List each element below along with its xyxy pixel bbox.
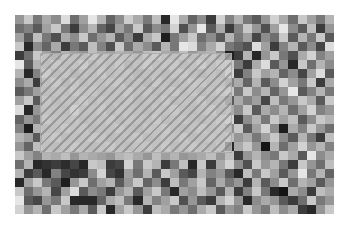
pixel-cell [24, 96, 33, 105]
pixel-cell [298, 33, 307, 42]
pixel-cell [79, 169, 88, 178]
pixel-cell [288, 15, 297, 24]
pixel-cell [133, 24, 142, 33]
pixel-cell [288, 160, 297, 169]
pixel-cell [216, 178, 225, 187]
pixel-cell [325, 105, 334, 114]
pixel-cell [279, 178, 288, 187]
pixel-cell [279, 69, 288, 78]
pixel-cell [252, 196, 261, 205]
pixel-cell [279, 169, 288, 178]
pixel-cell [179, 24, 188, 33]
pixel-cell [307, 105, 316, 114]
pixel-cell [79, 15, 88, 24]
pixel-cell [188, 196, 197, 205]
pixel-cell [179, 196, 188, 205]
pixel-cell [161, 42, 170, 51]
pixel-cell [143, 169, 152, 178]
pixel-cell [51, 196, 60, 205]
pixel-cell [270, 105, 279, 114]
pixel-cell [24, 42, 33, 51]
pixel-cell [252, 133, 261, 142]
pixel-cell [115, 42, 124, 51]
pixel-cell [261, 78, 270, 87]
pixel-cell [234, 142, 243, 151]
pixel-cell [161, 178, 170, 187]
pixel-cell [279, 33, 288, 42]
pixel-cell [179, 169, 188, 178]
pixel-cell [298, 51, 307, 60]
pixel-cell [33, 196, 42, 205]
pixel-cell [133, 169, 142, 178]
pixel-cell [15, 96, 24, 105]
pixel-cell [97, 42, 106, 51]
pixel-cell [261, 42, 270, 51]
pixel-cell [143, 33, 152, 42]
pixel-cell [124, 205, 133, 214]
pixel-cell [234, 205, 243, 214]
pixel-cell [288, 24, 297, 33]
pixel-cell [279, 24, 288, 33]
pixel-cell [15, 169, 24, 178]
pixel-cell [298, 15, 307, 24]
pixel-cell [288, 33, 297, 42]
pixel-cell [288, 51, 297, 60]
pixel-cell [307, 51, 316, 60]
pixel-cell [42, 187, 51, 196]
pixel-cell [270, 15, 279, 24]
pixel-cell [234, 24, 243, 33]
pixel-cell [270, 196, 279, 205]
pixel-cell [279, 142, 288, 151]
pixel-cell [270, 115, 279, 124]
pixel-cell [307, 96, 316, 105]
pixel-cell [298, 96, 307, 105]
pixel-cell [307, 60, 316, 69]
pixel-cell [234, 187, 243, 196]
pixel-cell [61, 205, 70, 214]
pixel-cell [42, 24, 51, 33]
pixel-cell [51, 169, 60, 178]
pixel-cell [307, 24, 316, 33]
pixel-cell [143, 196, 152, 205]
pixel-cell [234, 33, 243, 42]
pixel-cell [325, 124, 334, 133]
pixel-cell [206, 33, 215, 42]
pixel-cell [325, 115, 334, 124]
selection-rectangle[interactable] [40, 53, 231, 153]
pixel-cell [298, 205, 307, 214]
pixel-cell [270, 42, 279, 51]
pixel-cell [143, 160, 152, 169]
pixel-cell [79, 196, 88, 205]
pixel-cell [288, 78, 297, 87]
pixel-cell [261, 24, 270, 33]
pixel-cell [288, 178, 297, 187]
pixel-cell [179, 33, 188, 42]
pixel-cell [197, 169, 206, 178]
pixel-cell [316, 96, 325, 105]
image-canvas[interactable] [15, 15, 334, 214]
pixel-cell [325, 169, 334, 178]
pixel-cell [252, 96, 261, 105]
pixel-cell [15, 51, 24, 60]
pixel-cell [15, 105, 24, 114]
pixel-cell [252, 42, 261, 51]
pixel-cell [316, 169, 325, 178]
pixel-cell [252, 69, 261, 78]
pixel-cell [197, 196, 206, 205]
pixel-cell [106, 42, 115, 51]
pixel-cell [298, 169, 307, 178]
pixel-cell [15, 42, 24, 51]
pixel-cell [261, 151, 270, 160]
pixel-cell [152, 205, 161, 214]
pixel-cell [188, 42, 197, 51]
pixel-cell [161, 160, 170, 169]
pixel-cell [33, 160, 42, 169]
pixel-cell [234, 87, 243, 96]
pixel-cell [243, 133, 252, 142]
pixel-cell [243, 87, 252, 96]
pixel-cell [325, 142, 334, 151]
pixel-cell [70, 205, 79, 214]
pixel-cell [270, 51, 279, 60]
pixel-cell [216, 24, 225, 33]
pixel-cell [24, 78, 33, 87]
